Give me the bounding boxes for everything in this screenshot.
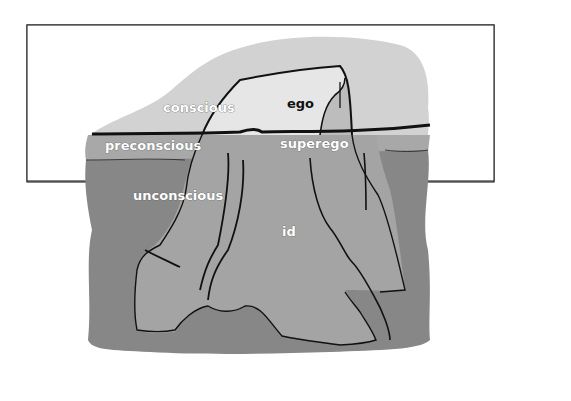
label-unconscious: unconscious: [133, 188, 223, 203]
label-conscious: conscious: [163, 100, 235, 115]
label-preconscious: preconscious: [105, 138, 202, 153]
label-superego: superego: [280, 136, 349, 151]
iceberg-diagram: conscious ego preconscious superego unco…: [0, 0, 571, 401]
label-id: id: [282, 224, 296, 239]
label-ego: ego: [287, 96, 314, 111]
